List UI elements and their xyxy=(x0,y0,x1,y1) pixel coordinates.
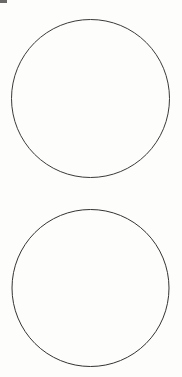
circle-bottom xyxy=(12,210,169,367)
circle-top xyxy=(12,20,170,178)
page-canvas xyxy=(0,0,182,377)
circles-figure xyxy=(0,0,182,377)
corner-smudge-artifact xyxy=(0,0,7,3)
